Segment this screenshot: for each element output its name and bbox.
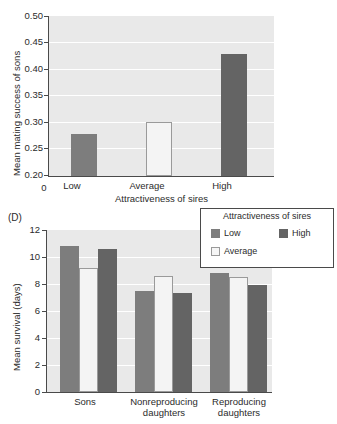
top-chart-xtick-high: High bbox=[197, 180, 247, 191]
top-chart-ytick-0.30: 0.30 bbox=[18, 117, 43, 127]
bottom-chart-bar-reproducing-low bbox=[210, 273, 229, 392]
bottom-chart-ytick-8: 8 bbox=[22, 279, 40, 289]
bottom-chart-xtick-nonreproducing-line1: Nonreproducing bbox=[124, 396, 204, 407]
top-chart-xtick-average: Average bbox=[122, 180, 172, 191]
top-chart-tick-0.25 bbox=[44, 148, 48, 149]
bottom-chart-ytick-6: 6 bbox=[22, 306, 40, 316]
bottom-chart-tick-0 bbox=[42, 392, 46, 393]
top-chart-x-axis bbox=[48, 176, 274, 177]
top-chart-x-axis-title: Attractiveness of sires bbox=[49, 193, 274, 204]
top-chart-gridline-0.45 bbox=[49, 42, 274, 43]
legend-label-high: High bbox=[292, 228, 311, 238]
bottom-chart-bar-sons-high bbox=[98, 249, 117, 392]
legend-entry-average: Average bbox=[211, 246, 257, 256]
bottom-chart-bar-nonreproducing-low bbox=[135, 291, 154, 392]
panel-label-d: (D) bbox=[8, 212, 22, 223]
bottom-chart-xtick-nonreproducing-line2: daughters bbox=[124, 407, 204, 418]
top-chart-ytick-0.25: 0.25 bbox=[18, 143, 43, 153]
top-chart-tick-0.20 bbox=[44, 175, 48, 176]
bottom-chart-xtick-sons: Sons bbox=[54, 396, 116, 407]
top-chart-bar-low bbox=[71, 134, 97, 176]
bottom-chart-y-axis-title: Mean survival (days) bbox=[11, 283, 22, 371]
legend-entry-high: High bbox=[279, 228, 311, 238]
legend-label-average: Average bbox=[224, 246, 257, 256]
bottom-chart-bar-reproducing-average bbox=[229, 277, 248, 392]
bottom-chart-ytick-2: 2 bbox=[22, 360, 40, 370]
chart-top-mating-success: Mean mating success of sons 0.50 0.45 0.… bbox=[0, 0, 337, 207]
bottom-chart-bar-sons-low bbox=[60, 246, 79, 392]
legend-swatch-average-icon bbox=[211, 247, 220, 256]
top-chart-tick-0.45 bbox=[44, 42, 48, 43]
top-chart-ytick-0.40: 0.40 bbox=[18, 64, 43, 74]
bottom-chart-tick-12 bbox=[42, 230, 46, 231]
bottom-chart-tick-8 bbox=[42, 284, 46, 285]
top-chart-tick-0.50 bbox=[44, 16, 48, 17]
bottom-chart-ytick-12: 12 bbox=[22, 225, 40, 235]
bottom-chart-tick-2 bbox=[42, 365, 46, 366]
chart-bottom-survival: (D) Mean survival (days) 12 10 8 6 4 2 0 bbox=[0, 207, 337, 424]
bottom-chart-tick-4 bbox=[42, 338, 46, 339]
legend-swatch-high-icon bbox=[279, 229, 288, 238]
bottom-chart-tick-10 bbox=[42, 257, 46, 258]
bottom-chart-bar-nonreproducing-high bbox=[173, 293, 192, 392]
bottom-chart-tick-6 bbox=[42, 311, 46, 312]
top-chart-ytick-0.35: 0.35 bbox=[18, 90, 43, 100]
top-chart-bar-average bbox=[146, 122, 172, 176]
bottom-chart-xtick-reproducing-line2: daughters bbox=[203, 407, 275, 418]
top-chart-tick-0.30 bbox=[44, 122, 48, 123]
bottom-chart-bar-nonreproducing-average bbox=[154, 276, 173, 392]
legend-entry-low: Low bbox=[211, 228, 241, 238]
top-chart-ytick-0.45: 0.45 bbox=[18, 37, 43, 47]
top-chart-ytick-0.50: 0.50 bbox=[18, 11, 43, 21]
legend-swatch-low-icon bbox=[211, 229, 220, 238]
bottom-chart-bar-reproducing-high bbox=[248, 285, 267, 392]
legend-label-low: Low bbox=[224, 228, 241, 238]
top-chart-bar-high bbox=[221, 54, 247, 176]
top-chart-ytick-0.20: 0.20 bbox=[18, 170, 43, 180]
top-chart-xtick-low: Low bbox=[47, 180, 97, 191]
bottom-chart-bar-sons-average bbox=[79, 268, 98, 392]
bottom-chart-ytick-10: 10 bbox=[22, 252, 40, 262]
legend: Attractiveness of sires Low High Average bbox=[200, 208, 334, 268]
bottom-chart-x-axis bbox=[46, 392, 272, 393]
legend-title: Attractiveness of sires bbox=[201, 211, 333, 221]
top-chart-tick-0.40 bbox=[44, 69, 48, 70]
top-chart-tick-0.35 bbox=[44, 95, 48, 96]
bottom-chart-ytick-4: 4 bbox=[22, 333, 40, 343]
top-chart-plot-area bbox=[49, 16, 274, 176]
bottom-chart-xtick-reproducing-line1: Reproducing bbox=[203, 396, 275, 407]
bottom-chart-ytick-0: 0 bbox=[22, 387, 40, 397]
